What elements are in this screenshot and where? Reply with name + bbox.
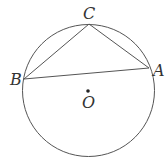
segment-ba (24, 68, 149, 79)
label-c: C (83, 4, 95, 23)
label-o: O (82, 93, 95, 112)
segment-ca (89, 24, 149, 68)
geometry-diagram: C B A O (0, 0, 168, 167)
label-a: A (151, 61, 165, 80)
label-b: B (9, 70, 22, 89)
